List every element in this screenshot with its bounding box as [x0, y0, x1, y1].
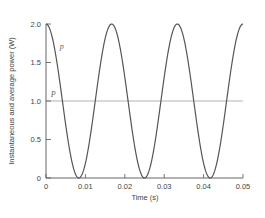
- y-axis-label: Instantaneous and average power (W): [7, 37, 16, 165]
- x-tick-label: 0.04: [196, 182, 211, 191]
- x-tick-label: 0.01: [78, 182, 93, 191]
- x-tick-label: 0: [44, 182, 48, 191]
- y-tick-label: 1.5: [31, 58, 41, 67]
- x-tick-label: 0.03: [157, 182, 172, 191]
- x-tick-label: 0.05: [236, 182, 251, 191]
- y-tick-label: 0.5: [31, 135, 41, 144]
- power-chart: 00.010.020.030.040.0500.51.01.52.0 Time …: [0, 0, 265, 218]
- y-tick-label: 1.0: [31, 97, 41, 106]
- curve-labels: pP: [50, 42, 64, 100]
- x-tick-label: 0.02: [117, 182, 132, 191]
- plot-area: [46, 24, 243, 178]
- y-tick-label: 2.0: [31, 20, 41, 29]
- y-tick-label: 0: [37, 174, 41, 183]
- label-P-average: P: [50, 90, 56, 99]
- label-p-instantaneous: p: [59, 42, 64, 51]
- x-axis-label: Time (s): [131, 193, 159, 202]
